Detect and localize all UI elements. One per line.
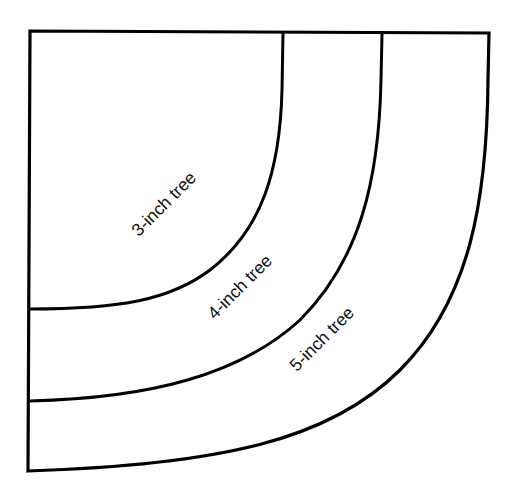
label-3-inch-tree: 3-inch tree <box>127 167 200 240</box>
label-4-inch-tree: 4-inch tree <box>203 250 276 323</box>
outer-boundary <box>28 31 489 471</box>
label-5-inch-tree: 5-inch tree <box>285 302 358 375</box>
arc-4-inch <box>30 34 382 401</box>
tree-template-diagram: 3-inch tree 4-inch tree 5-inch tree <box>0 0 517 489</box>
